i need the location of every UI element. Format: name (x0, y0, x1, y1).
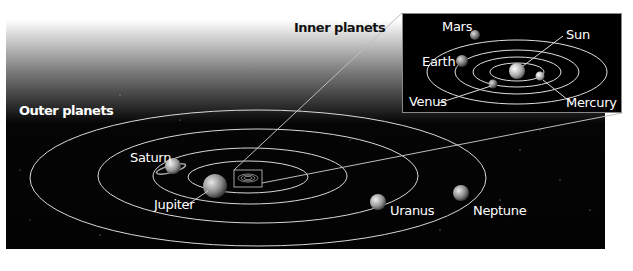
solar-system-diagram: Outer planets Inner planets Saturn Jupit… (0, 0, 633, 271)
uranus-icon (370, 194, 386, 210)
earth-icon (456, 55, 468, 67)
sun-label: Sun (566, 27, 590, 42)
sun-icon (509, 63, 525, 79)
mercury-icon (536, 72, 545, 81)
venus-icon (489, 80, 498, 89)
earth-label: Earth (422, 54, 455, 69)
jupiter-label: Jupiter (154, 197, 194, 212)
inner-planets-heading: Inner planets (294, 20, 385, 35)
mars-label: Mars (442, 19, 472, 34)
neptune-label: Neptune (473, 203, 526, 218)
jupiter-icon (203, 174, 227, 198)
outer-planets-heading: Outer planets (19, 103, 113, 118)
uranus-label: Uranus (390, 203, 434, 218)
saturn-label: Saturn (130, 150, 171, 165)
mercury-label: Mercury (566, 95, 617, 110)
neptune-icon (453, 185, 469, 201)
venus-label: Venus (409, 94, 447, 109)
inner-planets-inset: Mars Earth Venus Sun Mercury (402, 13, 622, 113)
